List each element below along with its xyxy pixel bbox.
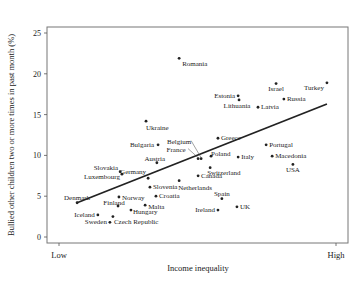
y-axis-title: Bullied other children two or more times… — [6, 34, 16, 236]
point-marker — [292, 163, 295, 166]
point-marker — [237, 156, 240, 159]
x-axis: Low High — [51, 243, 345, 260]
point-marker — [149, 186, 152, 189]
point-label: Lithuania — [224, 102, 252, 110]
data-point: Croatia — [155, 192, 181, 200]
data-point: Macedonia — [271, 152, 307, 160]
point-marker — [220, 197, 223, 200]
point-marker — [197, 157, 200, 160]
point-label: Belgium — [167, 138, 192, 146]
chart-canvas: 0510152025 Low High Income inequality Bu… — [0, 0, 363, 283]
point-label: Croatia — [159, 192, 180, 200]
point-label: Russia — [287, 95, 307, 103]
x-axis-title: Income inequality — [167, 263, 229, 273]
point-label: Austria — [145, 155, 167, 163]
x-tick-label-high: High — [328, 250, 346, 260]
point-label: Hungary — [133, 208, 158, 216]
point-label: Bulgaria — [130, 141, 155, 149]
point-label: Finland — [103, 199, 125, 207]
point-label: Italy — [241, 153, 254, 161]
y-tick-label: 25 — [33, 29, 41, 38]
point-marker — [237, 94, 240, 97]
point-marker — [197, 174, 200, 177]
point-label: Slovenia — [153, 183, 178, 191]
y-tick-label: 0 — [37, 233, 41, 242]
point-marker — [236, 205, 239, 208]
data-point: Greece — [217, 134, 241, 142]
point-marker — [130, 209, 133, 212]
point-marker — [282, 98, 285, 101]
y-axis: 0510152025 — [33, 29, 47, 242]
point-label: Latvia — [261, 103, 280, 111]
point-marker — [178, 179, 181, 182]
point-label: Netherlands — [178, 184, 212, 192]
scatter-chart: 0510152025 Low High Income inequality Bu… — [0, 0, 363, 283]
data-point: Israel — [268, 82, 284, 92]
point-label: Luxembourg — [84, 173, 121, 181]
data-point: Luxembourg — [84, 173, 123, 181]
point-label: Canada — [201, 172, 223, 180]
point-label: Poland — [211, 150, 231, 158]
point-label: Sweden — [85, 218, 108, 226]
data-point: Latvia — [257, 103, 280, 111]
data-point: Portugal — [265, 141, 293, 149]
data-point: Russia — [282, 95, 306, 103]
point-marker — [144, 204, 147, 207]
point-marker — [155, 195, 158, 198]
point-marker — [76, 201, 79, 204]
data-point: Canada — [197, 172, 223, 180]
point-marker — [109, 221, 112, 224]
data-point: Austria — [145, 155, 167, 164]
point-marker — [271, 155, 274, 158]
point-marker — [121, 173, 124, 176]
point-marker — [238, 99, 241, 102]
point-label: Greece — [221, 134, 241, 142]
point-marker — [157, 143, 160, 146]
point-label: Macedonia — [275, 152, 307, 160]
point-label: Spain — [214, 190, 230, 198]
data-point: Hungary — [130, 208, 158, 216]
point-marker — [257, 106, 260, 109]
y-tick-label: 20 — [33, 70, 41, 79]
point-label: Denmark — [64, 194, 91, 202]
point-label: USA — [286, 166, 300, 174]
point-label: Czech Republic — [114, 218, 159, 226]
point-label: Ireland — [195, 206, 215, 214]
point-label: Romania — [182, 60, 208, 68]
point-label: France — [167, 146, 186, 154]
point-label: Israel — [268, 85, 284, 93]
point-marker — [200, 157, 203, 160]
data-point: Slovenia — [149, 183, 179, 191]
point-marker — [145, 120, 148, 123]
y-tick-label: 5 — [37, 192, 41, 201]
data-point: Poland — [210, 150, 231, 158]
point-marker — [265, 143, 268, 146]
point-marker — [118, 196, 121, 199]
data-point: Finland — [103, 199, 125, 207]
point-label: Ukraine — [146, 124, 169, 132]
point-marker — [217, 137, 220, 140]
data-point: Czech Republic — [112, 215, 159, 225]
y-tick-label: 10 — [33, 151, 41, 160]
point-label: Germany — [120, 168, 147, 176]
data-point: Slovakia — [94, 164, 122, 173]
point-marker — [326, 81, 329, 84]
point-label: Norway — [122, 194, 145, 202]
x-tick-label-low: Low — [51, 250, 67, 260]
point-label: Portugal — [269, 141, 293, 149]
point-marker — [217, 209, 220, 212]
point-label: UK — [240, 203, 250, 211]
point-marker — [178, 57, 181, 60]
y-tick-label: 15 — [33, 111, 41, 120]
point-label: Turkey — [304, 84, 324, 92]
point-label: Slovakia — [94, 164, 119, 172]
point-marker — [147, 177, 150, 180]
point-marker — [96, 214, 99, 217]
point-label: Estonia — [214, 92, 236, 100]
